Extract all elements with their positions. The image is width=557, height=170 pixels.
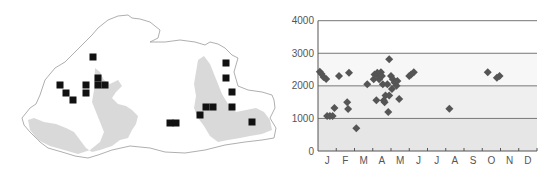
x-tick-label: J [416,155,421,166]
occurrence-marker [83,82,90,89]
x-tick-label: M [396,155,404,166]
x-tick-label: J [325,155,330,166]
altitude-month-chart: 01000200030004000 JFMAMJJASOND [290,0,557,170]
x-tick-label: F [342,155,348,166]
occurrence-marker [197,112,204,119]
x-tick-label: N [506,155,513,166]
occurrence-marker [83,90,90,97]
altitude-band [318,118,537,151]
occurrence-marker [90,54,97,61]
altitude-band [318,53,537,86]
occurrence-marker [63,90,70,97]
occurrence-marker [70,97,77,104]
occurrence-marker [210,104,217,111]
y-tick-label: 1000 [292,113,315,124]
occurrence-marker [95,82,102,89]
x-tick-label: D [524,155,531,166]
occurrence-marker [249,119,256,126]
occurrence-marker [203,104,210,111]
y-tick-label: 2000 [292,80,315,91]
altitude-band [318,21,537,54]
occurrence-marker [223,60,230,67]
y-tick-label: 3000 [292,48,315,59]
y-tick-label: 0 [308,146,314,157]
occurrence-marker [102,82,109,89]
y-tick-label: 4000 [292,15,315,26]
x-tick-label: J [434,155,439,166]
occurrence-marker [57,82,64,89]
occurrence-marker [95,75,102,82]
occurrence-marker [223,75,230,82]
occurrence-marker [229,89,236,96]
x-tick-label: A [452,155,459,166]
x-tick-label: S [470,155,477,166]
x-tick-label: A [379,155,386,166]
occurrence-marker [167,120,174,127]
y-tick-labels: 01000200030004000 [292,15,315,156]
distribution-map [0,0,290,170]
x-tick-label: M [359,155,367,166]
x-tick-label: O [487,155,495,166]
occurrence-marker [229,104,236,111]
occurrence-marker [173,120,180,127]
